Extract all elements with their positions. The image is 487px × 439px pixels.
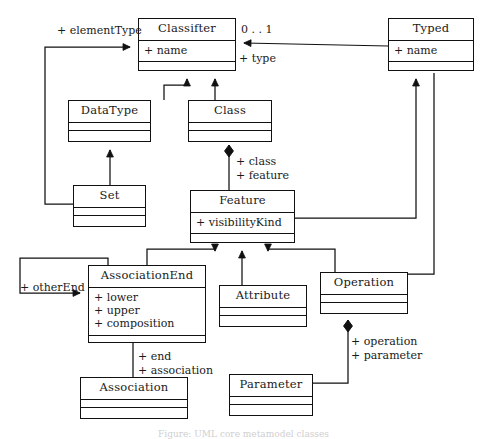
class-attributes-operation	[321, 295, 407, 303]
class-name-typed: Typed	[389, 19, 473, 41]
class-name-feature: Feature	[191, 191, 294, 213]
class-name-parameter: Parameter	[230, 375, 312, 397]
class-operations-associationend	[89, 336, 205, 344]
edge-label-multiplicity-0-1: 0 . . 1	[241, 23, 272, 37]
line-associationend-to-feature	[147, 249, 215, 265]
class-operations-parameter	[230, 405, 312, 413]
class-attributes-feature: + visibilityKind	[191, 213, 294, 234]
edge-label-element-type: + elementType	[57, 24, 142, 38]
class-name-set: Set	[74, 186, 145, 208]
class-attributes-typed: + name	[389, 41, 473, 62]
class-attributes-attribute	[220, 308, 306, 316]
class-operations-datatype	[69, 131, 150, 139]
edge-label-parameter-role: + parameter	[351, 349, 422, 363]
class-box-association[interactable]: Association	[80, 377, 188, 419]
uml-class-diagram: Classifter : +elementType (left routed) …	[0, 0, 487, 439]
line-datatype-to-classifier	[164, 79, 187, 100]
edge-label-type-role: + type	[239, 52, 276, 66]
line-operation-to-typed	[408, 73, 434, 274]
edge-label-class-role: + class	[236, 155, 276, 169]
edge-label-operation-role: + operation	[351, 335, 417, 349]
class-attributes-associationend: + lower + upper + composition	[89, 288, 205, 336]
class-operations-classifter	[139, 62, 235, 70]
class-box-class[interactable]: Class	[188, 100, 272, 142]
class-name-operation: Operation	[321, 273, 407, 295]
class-name-classifter: Classifter	[139, 19, 235, 41]
class-attributes-set	[74, 208, 145, 216]
line-operation-owns-parameter	[313, 320, 348, 383]
class-operations-operation	[321, 303, 407, 311]
class-attributes-classifter: + name	[139, 41, 235, 62]
line-typed-type-classifier	[244, 43, 388, 46]
class-box-attribute[interactable]: Attribute	[219, 285, 307, 327]
class-operations-attribute	[220, 316, 306, 324]
edge-label-end-role: + end	[138, 350, 171, 364]
class-box-classifter[interactable]: Classifter + name	[138, 18, 236, 71]
line-feature-to-typed	[295, 79, 416, 218]
line-operation-to-feature	[268, 249, 335, 272]
class-attributes-parameter	[230, 397, 312, 405]
class-operations-typed	[389, 62, 473, 70]
class-box-datatype[interactable]: DataType	[68, 100, 151, 142]
class-box-set[interactable]: Set	[73, 185, 146, 227]
class-name-association: Association	[81, 378, 187, 400]
class-operations-association	[81, 408, 187, 416]
class-name-attribute: Attribute	[220, 286, 306, 308]
class-operations-class	[189, 131, 271, 139]
edge-label-association-role: + association	[138, 364, 213, 378]
class-name-datatype: DataType	[69, 101, 150, 123]
class-name-class: Class	[189, 101, 271, 123]
class-attributes-association	[81, 400, 187, 408]
edge-label-feature-role: + feature	[236, 169, 289, 183]
class-attributes-datatype	[69, 123, 150, 131]
class-box-typed[interactable]: Typed + name	[388, 18, 474, 71]
figure-caption: Figure: UML core metamodel classes	[0, 429, 487, 439]
class-box-associationend[interactable]: AssociationEnd + lower + upper + composi…	[88, 265, 206, 343]
edge-label-other-end-role: + otherEnd	[20, 281, 85, 295]
class-operations-set	[74, 216, 145, 224]
class-box-operation[interactable]: Operation	[320, 272, 408, 314]
class-operations-feature	[191, 234, 294, 242]
class-box-feature[interactable]: Feature + visibilityKind	[190, 190, 295, 243]
class-box-parameter[interactable]: Parameter	[229, 374, 313, 416]
class-name-associationend: AssociationEnd	[89, 266, 205, 288]
class-attributes-class	[189, 123, 271, 131]
